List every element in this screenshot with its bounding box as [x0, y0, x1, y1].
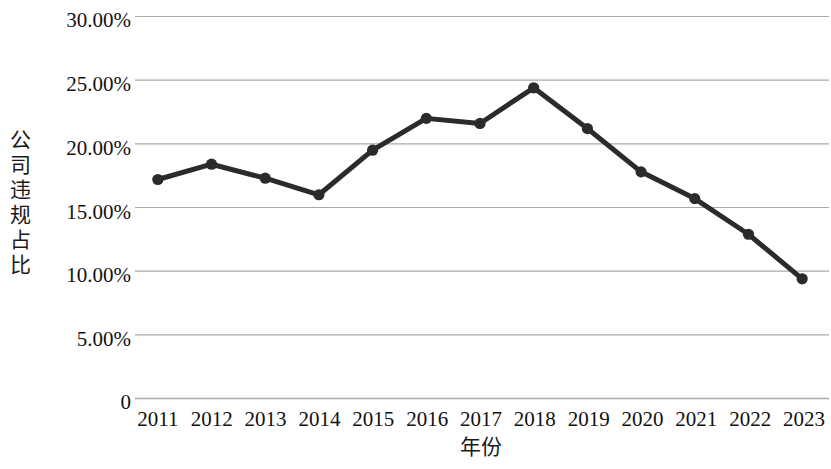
x-tick-label: 2022	[723, 406, 777, 434]
data-point-marker	[474, 118, 485, 129]
data-point-marker	[635, 166, 646, 177]
gridlines	[135, 17, 829, 399]
x-tick-label: 2012	[185, 406, 239, 434]
data-point-marker	[206, 159, 217, 170]
x-tick-label: 2014	[293, 406, 347, 434]
data-point-marker	[528, 82, 539, 93]
data-point-marker	[689, 193, 700, 204]
data-point-marker	[260, 173, 271, 184]
data-point-marker	[797, 273, 808, 284]
x-tick-label: 2023	[777, 406, 831, 434]
data-markers	[152, 82, 808, 284]
data-point-marker	[367, 145, 378, 156]
x-tick-label: 2020	[616, 406, 670, 434]
plot-area	[0, 0, 831, 469]
x-tick-label: 2013	[239, 406, 293, 434]
line-chart: 公司违规占比 30.00% 25.00% 20.00% 15.00% 10.00…	[0, 0, 831, 469]
x-axis-title: 年份	[131, 434, 831, 460]
data-line	[158, 88, 802, 279]
x-tick-label: 2019	[562, 406, 616, 434]
data-point-marker	[152, 174, 163, 185]
x-tick-label: 2021	[669, 406, 723, 434]
data-point-marker	[421, 113, 432, 124]
x-tick-label: 2011	[131, 406, 185, 434]
x-tick-label: 2018	[508, 406, 562, 434]
x-tick-label: 2016	[400, 406, 454, 434]
data-point-marker	[743, 229, 754, 240]
data-point-marker	[313, 189, 324, 200]
x-tick-label: 2017	[454, 406, 508, 434]
x-axis-tick-labels: 2011201220132014201520162017201820192020…	[131, 406, 831, 434]
data-point-marker	[582, 123, 593, 134]
x-tick-label: 2015	[346, 406, 400, 434]
